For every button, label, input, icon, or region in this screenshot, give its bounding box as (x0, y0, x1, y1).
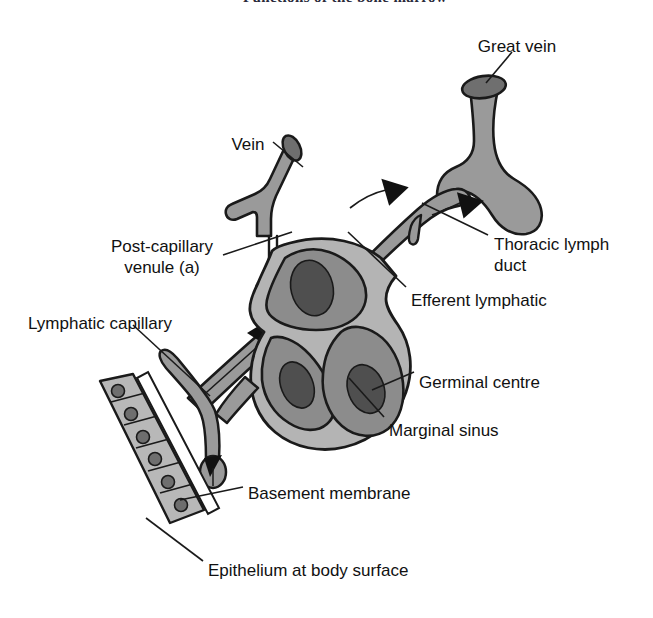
label-thoracic-lymph-duct: Thoracic lymph duct (494, 234, 644, 276)
label-germinal-centre: Germinal centre (419, 372, 609, 393)
lymph-node-figure: Functions of the bone marrow (0, 0, 653, 618)
label-basement-membrane: Basement membrane (248, 483, 478, 504)
efferent-lymphatic-vessel (350, 174, 412, 208)
label-vein: Vein (206, 134, 290, 155)
label-great-vein: Great vein (457, 36, 577, 57)
great-vein-tube (437, 73, 542, 234)
leader-epithelium (146, 518, 203, 561)
label-post-capillary-venule: Post-capillary venule (a) (82, 236, 242, 278)
label-lymphatic-capillary: Lymphatic capillary (28, 313, 228, 334)
label-epithelium-at-body-surface: Epithelium at body surface (208, 560, 508, 581)
label-efferent-lymphatic: Efferent lymphatic (411, 290, 611, 311)
lymph-node (250, 239, 411, 450)
label-marginal-sinus: Marginal sinus (389, 420, 569, 441)
